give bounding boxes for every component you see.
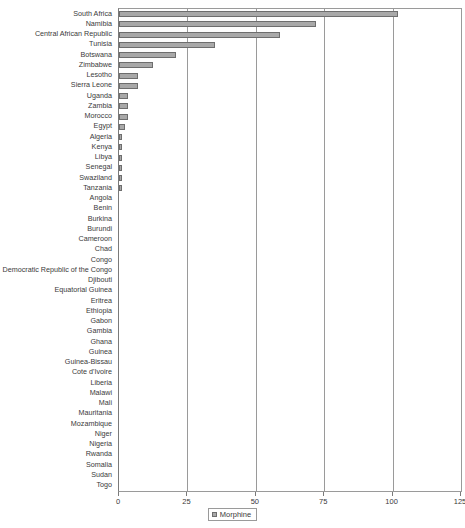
category-label: Central African Republic xyxy=(0,29,116,39)
category-label: Congo xyxy=(0,254,116,264)
bar-row xyxy=(119,409,461,419)
bar-row xyxy=(119,429,461,439)
category-label: Somalia xyxy=(0,459,116,469)
bar xyxy=(119,62,153,68)
bar xyxy=(119,21,316,27)
category-label: Zambia xyxy=(0,100,116,110)
bar xyxy=(119,155,122,161)
bar-row xyxy=(119,81,461,91)
x-tick-label: 75 xyxy=(319,497,327,506)
bar-row xyxy=(119,470,461,480)
category-label: Senegal xyxy=(0,162,116,172)
category-label: Lesotho xyxy=(0,70,116,80)
x-tick-mark xyxy=(186,492,187,496)
x-tick-label: 125 xyxy=(454,497,465,506)
bar-row xyxy=(119,265,461,275)
bar-row xyxy=(119,163,461,173)
category-label: Sudan xyxy=(0,469,116,479)
bar xyxy=(119,93,128,99)
category-label: Sierra Leone xyxy=(0,80,116,90)
bar xyxy=(119,134,122,140)
bar xyxy=(119,103,128,109)
bar-row xyxy=(119,71,461,81)
x-tick-mark xyxy=(323,492,324,496)
category-label: Guinea-Bissau xyxy=(0,357,116,367)
morphine-consumption-bar-chart: South AfricaNamibiaCentral African Repub… xyxy=(0,0,465,528)
bar-row xyxy=(119,112,461,122)
bar xyxy=(119,185,122,191)
legend-swatch-morphine xyxy=(212,512,217,517)
bar-row xyxy=(119,255,461,265)
x-tick-mark xyxy=(460,492,461,496)
bar-row xyxy=(119,368,461,378)
bar-row xyxy=(119,306,461,316)
category-axis-labels: South AfricaNamibiaCentral African Repub… xyxy=(0,8,116,492)
category-label: Tunisia xyxy=(0,39,116,49)
bars-layer xyxy=(119,9,461,491)
bar-row xyxy=(119,276,461,286)
bar-row xyxy=(119,440,461,450)
bar xyxy=(119,165,122,171)
bar xyxy=(119,32,280,38)
bar-row xyxy=(119,60,461,70)
bar-row xyxy=(119,30,461,40)
category-label: Mauritania xyxy=(0,408,116,418)
category-label: Equatorial Guinea xyxy=(0,285,116,295)
category-label: Burundi xyxy=(0,223,116,233)
category-label: Swaziland xyxy=(0,172,116,182)
category-label: Malawi xyxy=(0,387,116,397)
category-label: Mali xyxy=(0,398,116,408)
category-label: Togo xyxy=(0,480,116,490)
category-label: Rwanda xyxy=(0,449,116,459)
bar xyxy=(119,11,398,17)
bar-row xyxy=(119,235,461,245)
category-label: Eritrea xyxy=(0,295,116,305)
bar-row xyxy=(119,399,461,409)
x-tick-label: 50 xyxy=(251,497,259,506)
bar xyxy=(119,144,122,150)
legend-label-morphine: Morphine xyxy=(220,510,251,519)
category-label: Ethiopia xyxy=(0,305,116,315)
category-label: Namibia xyxy=(0,18,116,28)
bar-row xyxy=(119,296,461,306)
category-label: Morocco xyxy=(0,111,116,121)
bar-row xyxy=(119,245,461,255)
bar-row xyxy=(119,204,461,214)
bar-row xyxy=(119,19,461,29)
bar xyxy=(119,83,138,89)
bar-row xyxy=(119,214,461,224)
x-tick-mark xyxy=(255,492,256,496)
bar-row xyxy=(119,358,461,368)
bar-row xyxy=(119,419,461,429)
category-label: Botswana xyxy=(0,49,116,59)
category-label: Cameroon xyxy=(0,234,116,244)
bar-row xyxy=(119,388,461,398)
category-label: Gambia xyxy=(0,326,116,336)
category-label: Angola xyxy=(0,193,116,203)
bar-row xyxy=(119,40,461,50)
category-label: Nigeria xyxy=(0,439,116,449)
bar xyxy=(119,124,125,130)
category-label: Algeria xyxy=(0,131,116,141)
category-label: Zimbabwe xyxy=(0,59,116,69)
x-tick-label: 100 xyxy=(385,497,398,506)
bar-row xyxy=(119,194,461,204)
category-label: Guinea xyxy=(0,346,116,356)
category-label: South Africa xyxy=(0,8,116,18)
bar-row xyxy=(119,460,461,470)
bar-row xyxy=(119,286,461,296)
bar-row xyxy=(119,481,461,491)
bar-row xyxy=(119,122,461,132)
bar-row xyxy=(119,224,461,234)
category-label: Ghana xyxy=(0,336,116,346)
category-label: Kenya xyxy=(0,141,116,151)
bar xyxy=(119,73,138,79)
category-label: Niger xyxy=(0,428,116,438)
bar-row xyxy=(119,337,461,347)
category-label: Liberia xyxy=(0,377,116,387)
legend-box: Morphine xyxy=(208,508,257,521)
category-label: Burkina xyxy=(0,213,116,223)
bar xyxy=(119,114,128,120)
bar-row xyxy=(119,173,461,183)
bar xyxy=(119,52,176,58)
